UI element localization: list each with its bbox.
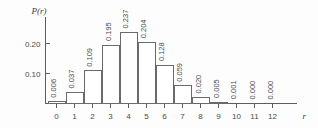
histogram-bar [156,65,173,103]
x-tick-label: 5 [144,112,149,121]
x-tick-label: 2 [90,112,95,121]
y-tick-label: 0.10 [25,70,41,79]
bar-value-label: 0.005 [212,79,221,98]
chart-canvas: 0.100.20P(r)00.00610.03720.10930.19540.2… [0,0,318,128]
histogram-bar [48,102,65,104]
bar-value-label: 0.204 [140,20,149,39]
y-tick-label: 0.20 [25,40,41,49]
histogram-bar [174,86,191,104]
x-tick-label: 12 [268,112,277,121]
bar-value-label: 0.059 [176,63,185,82]
x-tick-label: 6 [162,112,167,121]
x-axis-label: r [303,111,307,121]
bar-value-label: 0.237 [122,10,131,29]
histogram-bar [192,98,209,104]
x-tick-label: 0 [54,112,59,121]
bar-value-label: 0.000 [266,81,275,100]
histogram-bar [138,42,155,103]
x-tick-label: 4 [126,112,131,121]
bar-value-label: 0.195 [104,22,113,41]
bar-value-label: 0.109 [86,48,95,67]
bar-value-label: 0.020 [194,75,203,94]
histogram-bar [66,92,83,103]
x-tick-label: 9 [216,112,221,121]
x-tick-label: 11 [250,112,259,121]
bar-value-label: 0.000 [248,81,257,100]
histogram-bar [102,45,119,104]
x-tick-label: 7 [180,112,185,121]
probability-histogram: 0.100.20P(r)00.00610.03720.10930.19540.2… [0,0,318,128]
y-axis-label: P(r) [31,6,47,16]
bar-value-label: 0.128 [158,42,167,61]
bar-value-label: 0.037 [68,70,77,89]
x-tick-label: 8 [198,112,203,121]
x-tick-label: 1 [72,112,77,121]
histogram-bar [84,71,101,104]
bar-value-label: 0.001 [230,80,239,99]
bar-value-label: 0.006 [50,79,59,98]
x-tick-label: 10 [232,112,241,121]
x-tick-label: 3 [108,112,113,121]
histogram-bar [120,32,137,103]
histogram-bar [210,102,227,104]
